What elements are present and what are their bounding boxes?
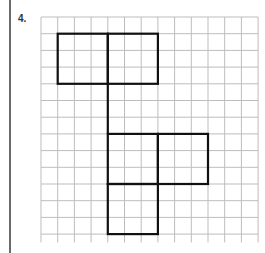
grid-diagram — [0, 0, 265, 253]
square-middle-right — [158, 134, 208, 184]
square-top-right — [108, 34, 158, 84]
grid-lines — [41, 17, 258, 242]
square-top-left — [58, 34, 108, 84]
square-middle-left — [108, 134, 158, 184]
square-bottom — [108, 184, 158, 234]
